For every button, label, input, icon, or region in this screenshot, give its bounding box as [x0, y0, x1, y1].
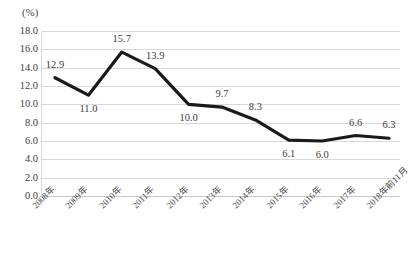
data-point-label: 9.7	[215, 89, 228, 100]
y-axis-tick-labels: 18.016.014.012.010.08.06.04.02.00.0	[0, 0, 38, 257]
y-axis-tick-label: 8.0	[0, 117, 38, 128]
series-line	[42, 0, 400, 257]
data-point-label: 12.9	[46, 60, 64, 71]
line-chart: (%) 18.016.014.012.010.08.06.04.02.00.0 …	[0, 0, 416, 257]
y-axis-tick-label: 10.0	[0, 99, 38, 110]
data-point-label: 11.0	[79, 104, 97, 115]
y-axis-tick-label: 14.0	[0, 62, 38, 73]
data-point-label: 6.1	[282, 149, 295, 160]
y-axis-tick-label: 16.0	[0, 44, 38, 55]
y-axis-tick-label: 18.0	[0, 26, 38, 37]
data-point-label: 15.7	[113, 34, 131, 45]
plot-area: 12.911.015.713.910.09.78.36.16.06.66.3 2…	[42, 0, 400, 257]
data-point-label: 6.6	[349, 117, 362, 128]
y-axis-tick-label: 4.0	[0, 154, 38, 165]
y-axis-tick-label: 2.0	[0, 172, 38, 183]
data-point-label: 10.0	[179, 113, 197, 124]
data-point-label: 6.0	[316, 150, 329, 161]
data-point-label: 6.3	[382, 120, 395, 131]
y-axis-tick-label: 6.0	[0, 136, 38, 147]
y-axis-tick-label: 12.0	[0, 81, 38, 92]
data-point-label: 13.9	[146, 50, 164, 61]
y-axis-line	[41, 31, 42, 197]
data-point-label: 8.3	[249, 102, 262, 113]
